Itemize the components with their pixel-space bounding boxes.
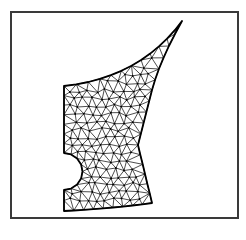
mesh-node bbox=[69, 104, 71, 106]
mesh-edge bbox=[77, 106, 89, 107]
mesh-edge bbox=[124, 84, 127, 91]
mesh-edge bbox=[145, 84, 152, 90]
mesh-node bbox=[95, 166, 97, 168]
mesh-node bbox=[79, 92, 81, 94]
mesh-edge bbox=[141, 68, 144, 74]
mesh-edge bbox=[124, 169, 132, 170]
mesh-edge bbox=[109, 185, 113, 193]
mesh-node bbox=[110, 112, 112, 114]
mesh-node bbox=[123, 91, 125, 93]
mesh-edge bbox=[97, 128, 102, 140]
mesh-edge bbox=[126, 191, 130, 200]
mesh-node bbox=[133, 137, 135, 139]
mesh-node bbox=[129, 199, 131, 201]
mesh-node bbox=[114, 123, 116, 125]
mesh-node bbox=[87, 138, 89, 140]
mesh-edge bbox=[113, 185, 119, 191]
mesh-edge bbox=[119, 155, 121, 162]
mesh-edge bbox=[140, 89, 152, 90]
mesh-edge bbox=[64, 134, 71, 138]
mesh-edge bbox=[64, 115, 76, 123]
mesh-edge bbox=[82, 139, 88, 145]
mesh-node bbox=[94, 182, 96, 184]
mesh-node bbox=[123, 123, 125, 125]
mesh-edge bbox=[140, 105, 146, 112]
mesh-node bbox=[69, 197, 71, 199]
mesh-node bbox=[71, 145, 73, 147]
mesh-edge bbox=[77, 107, 84, 114]
mesh-node bbox=[126, 99, 128, 101]
mesh-edge bbox=[114, 146, 120, 153]
mesh-node bbox=[123, 184, 125, 186]
mesh-edge bbox=[113, 198, 114, 207]
mesh-edge bbox=[96, 167, 100, 177]
mesh-node bbox=[144, 83, 146, 85]
mesh-node bbox=[121, 198, 123, 200]
mesh-edge bbox=[113, 178, 118, 185]
mesh-node bbox=[96, 201, 98, 203]
mesh-edge bbox=[92, 146, 96, 152]
mesh-edge bbox=[126, 84, 133, 91]
mesh-node bbox=[130, 106, 132, 108]
mesh-edge bbox=[78, 128, 81, 139]
mesh-node bbox=[104, 88, 106, 90]
mesh-edge bbox=[72, 145, 82, 146]
mesh-edge bbox=[102, 128, 106, 137]
mesh-edge bbox=[94, 159, 96, 167]
mesh-edge bbox=[107, 168, 116, 169]
mesh-node bbox=[91, 176, 93, 178]
mesh-edge bbox=[135, 97, 141, 105]
mesh-node bbox=[81, 144, 83, 146]
mesh-edges bbox=[64, 21, 182, 211]
mesh-edge bbox=[80, 201, 84, 210]
mesh-node bbox=[105, 106, 107, 108]
mesh-edge bbox=[96, 153, 104, 154]
mesh-node bbox=[113, 91, 115, 93]
mesh-edge bbox=[110, 144, 120, 146]
mesh-node bbox=[140, 74, 142, 76]
mesh-edge bbox=[131, 107, 138, 113]
mesh-edge bbox=[97, 139, 101, 145]
mesh-edge bbox=[138, 112, 143, 123]
mesh-node bbox=[132, 75, 134, 77]
mesh-edge bbox=[78, 139, 82, 145]
mesh-edge bbox=[76, 122, 81, 128]
mesh-edge bbox=[118, 178, 124, 185]
mesh-edge bbox=[145, 74, 148, 84]
mesh-edge bbox=[126, 76, 132, 84]
mesh-node bbox=[131, 168, 133, 170]
mesh-edge bbox=[107, 163, 111, 170]
mesh-edge bbox=[129, 177, 133, 182]
mesh-edge bbox=[97, 194, 101, 201]
mesh-node bbox=[96, 138, 98, 140]
mesh-edge bbox=[122, 191, 127, 198]
mesh-edge bbox=[103, 201, 104, 209]
mesh-node bbox=[71, 193, 73, 195]
mesh-node bbox=[91, 96, 93, 98]
mesh-node bbox=[118, 146, 120, 148]
mesh-edge bbox=[84, 114, 93, 115]
mesh-node bbox=[134, 96, 136, 98]
mesh-edge bbox=[107, 178, 111, 184]
mesh-node bbox=[71, 129, 73, 131]
mesh-edge bbox=[101, 145, 104, 154]
mesh-node bbox=[108, 192, 110, 194]
mesh-node bbox=[123, 170, 125, 172]
mesh-node bbox=[76, 121, 78, 123]
mesh-edge bbox=[72, 146, 77, 152]
mesh-edge bbox=[120, 97, 121, 107]
mesh-edge bbox=[100, 169, 106, 177]
mesh-edge bbox=[115, 137, 120, 147]
mesh-node bbox=[80, 127, 82, 129]
mesh-edge bbox=[80, 192, 81, 201]
mesh-edge bbox=[119, 107, 121, 113]
mesh-node bbox=[129, 176, 131, 178]
mesh-edge bbox=[84, 151, 85, 160]
mesh-edge bbox=[133, 76, 138, 84]
mesh-edge bbox=[89, 97, 92, 106]
mesh-edge bbox=[93, 107, 96, 115]
mesh-edge bbox=[100, 194, 104, 201]
mesh-node bbox=[89, 130, 91, 132]
mesh-edge bbox=[113, 185, 124, 186]
mesh-node bbox=[88, 182, 90, 184]
